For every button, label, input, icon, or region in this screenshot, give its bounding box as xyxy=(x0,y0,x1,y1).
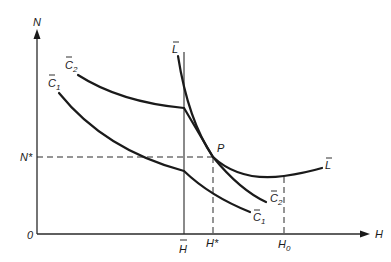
c2-curve-bottom-label: C2 xyxy=(270,192,283,207)
origin-label: 0 xyxy=(27,229,34,241)
y-axis-arrow-icon xyxy=(34,29,41,39)
l-curve xyxy=(178,56,322,177)
c2-curve xyxy=(78,75,266,202)
l-curve-top-label: L xyxy=(172,43,178,55)
point-p-label: P xyxy=(217,142,225,154)
x-axis-label: H xyxy=(375,228,383,240)
n-star-label: N* xyxy=(20,151,33,163)
y-axis-label: N xyxy=(33,16,41,28)
h-star-label: H* xyxy=(206,237,219,249)
c1-curve-top-label: C1 xyxy=(48,77,60,92)
l-curve-right-label: L xyxy=(325,159,331,171)
c1-curve-bottom-label: C1 xyxy=(253,211,265,226)
labor-supply-diagram: N H 0 N* H H* H0 L L C2 C1 C2 C1 P xyxy=(0,0,391,262)
x-axis-arrow-icon xyxy=(360,231,370,238)
h-zero-label: H0 xyxy=(278,238,291,253)
c2-curve-top-label: C2 xyxy=(65,59,78,74)
h-bar-label: H xyxy=(179,243,187,255)
